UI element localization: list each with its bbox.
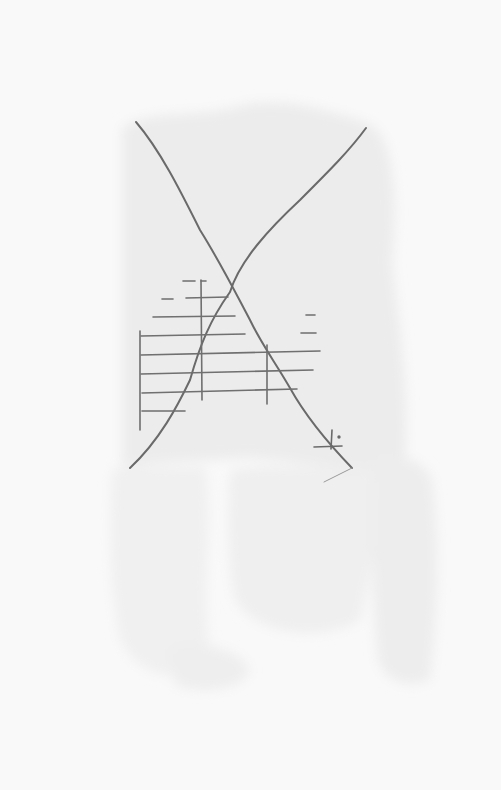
- paper-wash: [110, 103, 437, 690]
- pencil-drawing: [0, 0, 501, 790]
- artwork-canvas: [0, 0, 501, 790]
